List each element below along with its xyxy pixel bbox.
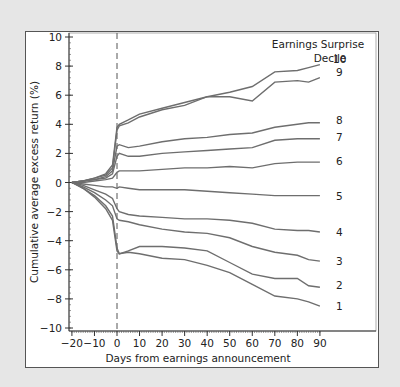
x-axis-title: Days from earnings announcement <box>105 352 290 364</box>
decile-label-1: 1 <box>336 300 343 312</box>
x-tick-label: 50 <box>223 337 236 349</box>
decile-label-7: 7 <box>336 131 343 143</box>
y-tick-label: −2 <box>47 206 62 218</box>
y-tick-label: −6 <box>47 264 63 276</box>
x-tick-label: 40 <box>200 337 213 349</box>
decile-label-6: 6 <box>336 155 343 167</box>
y-tick-label: 6 <box>55 89 62 101</box>
x-tick-label: 80 <box>291 337 304 349</box>
y-axis: 1086420−2−4−6−8−10 <box>40 31 73 334</box>
decile-label-9: 9 <box>336 66 343 78</box>
decile-label-3: 3 <box>336 255 343 267</box>
x-tick-label: 60 <box>246 337 259 349</box>
decile-label-5: 5 <box>336 190 343 202</box>
x-tick-label: 10 <box>133 337 146 349</box>
y-axis-title: Cumulative average excess return (%) <box>28 81 40 283</box>
x-tick-label: 70 <box>268 337 281 349</box>
line-chart: 1086420−2−4−6−8−10 −20−10010203040506070… <box>0 0 400 387</box>
x-tick-label: −20 <box>61 337 83 349</box>
y-tick-label: 8 <box>55 60 62 72</box>
x-axis: −20−100102030405060708090 <box>61 331 376 349</box>
x-tick-label: 20 <box>155 337 168 349</box>
plot-background <box>69 33 376 331</box>
y-tick-label: 4 <box>55 118 62 130</box>
plot-area <box>69 33 376 331</box>
legend-title-line1: Earnings Surprise <box>272 38 364 50</box>
y-tick-label: −10 <box>40 322 62 334</box>
y-tick-label: 0 <box>55 177 62 189</box>
x-tick-label: 90 <box>313 337 326 349</box>
y-tick-label: 2 <box>55 147 62 159</box>
y-tick-label: 10 <box>49 31 62 43</box>
y-tick-label: −8 <box>47 293 62 305</box>
decile-label-4: 4 <box>336 226 343 238</box>
decile-label-10: 10 <box>333 53 346 65</box>
decile-label-2: 2 <box>336 279 343 291</box>
x-tick-label: 30 <box>178 337 191 349</box>
x-tick-label: −10 <box>83 337 105 349</box>
y-tick-label: −4 <box>47 235 63 247</box>
x-tick-label: 0 <box>114 337 121 349</box>
decile-label-8: 8 <box>336 114 343 126</box>
